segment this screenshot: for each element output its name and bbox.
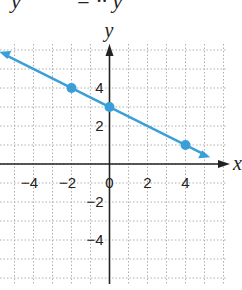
x-tick-label: −2	[59, 174, 76, 191]
data-point	[67, 83, 77, 93]
x-tick-label: −4	[21, 174, 38, 191]
y-tick-label: 4	[95, 79, 103, 96]
x-tick-label: 2	[143, 174, 151, 191]
data-point	[181, 140, 191, 150]
y-tick-label: 2	[95, 117, 103, 134]
data-point	[105, 102, 115, 112]
data-line	[5, 55, 204, 154]
x-tick-label: 0	[105, 174, 113, 191]
y-axis-label: y	[103, 19, 114, 42]
y-tick-label: −4	[86, 231, 103, 248]
y-tick-label: −2	[86, 193, 103, 210]
x-axis-label: x	[232, 152, 242, 174]
x-tick-label: 4	[181, 174, 189, 191]
coordinate-plane: xy−4−202442−2−4	[0, 0, 242, 290]
